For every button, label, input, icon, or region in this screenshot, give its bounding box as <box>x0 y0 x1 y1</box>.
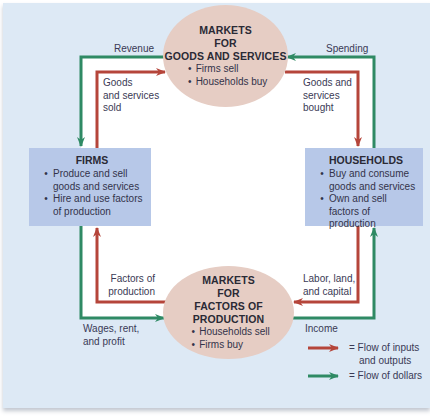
bullet-item: •Own and sell factors of production <box>315 193 417 231</box>
markets-factors-title-2: FOR <box>217 287 239 300</box>
goods-bought-label: Goods and services bought <box>303 77 352 115</box>
households-title: HOUSEHOLDS <box>315 154 417 167</box>
firms-title: FIRMS <box>39 154 145 167</box>
income-label: Income <box>305 323 338 336</box>
bullet-item: •Households buy <box>184 76 268 89</box>
spending-label: Spending <box>326 43 368 56</box>
bullet-item: •Households sell <box>187 326 270 339</box>
revenue-label: Revenue <box>114 43 154 56</box>
markets-goods-title-3: GOODS AND SERVICES <box>165 50 287 63</box>
markets-goods-title-2: FOR <box>214 37 236 50</box>
markets-factors-bullets: •Households sell •Firms buy <box>187 326 270 351</box>
households-box: HOUSEHOLDS •Buy and consume goods and se… <box>305 148 423 226</box>
labor-land-capital-label: Labor, land, and capital <box>303 273 355 298</box>
bullet-item: •Buy and consume goods and services <box>315 168 417 193</box>
bullet-item: •Hire and use factors of production <box>39 193 145 218</box>
legend-dollars: = Flow of dollars <box>349 370 422 383</box>
markets-goods-bullets: •Firms sell •Households buy <box>184 63 268 88</box>
markets-factors-title-3: FACTORS OF PRODUCTION <box>163 300 294 326</box>
firms-box: FIRMS •Produce and sell goods and servic… <box>29 148 151 226</box>
bullet-item: •Produce and sell goods and services <box>39 168 145 193</box>
households-bullets: •Buy and consume goods and services •Own… <box>315 168 417 231</box>
markets-goods-services-ellipse: MARKETS FOR GOODS AND SERVICES •Firms se… <box>163 5 288 107</box>
bullet-item: •Firms sell <box>184 63 268 76</box>
markets-goods-title-1: MARKETS <box>199 24 252 37</box>
markets-factors-ellipse: MARKETS FOR FACTORS OF PRODUCTION •House… <box>163 266 294 359</box>
bullet-item: •Firms buy <box>187 339 270 352</box>
legend-inputs-outputs: = Flow of inputs and outputs <box>349 342 419 367</box>
goods-sold-label: Goods and services sold <box>103 77 159 115</box>
factors-of-production-label: Factors of production <box>107 273 155 298</box>
wages-rent-profit-label: Wages, rent, and profit <box>83 323 139 348</box>
firms-bullets: •Produce and sell goods and services •Hi… <box>39 168 145 218</box>
markets-factors-title-1: MARKETS <box>202 274 255 287</box>
